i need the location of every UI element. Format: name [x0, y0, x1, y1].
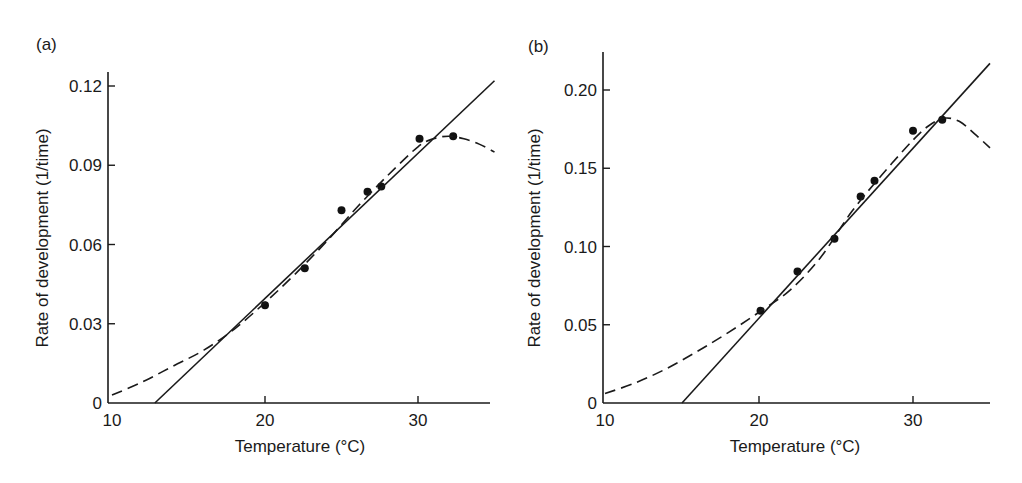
y-tick-label: 0.03 — [69, 315, 102, 334]
data-point — [364, 188, 372, 196]
x-tick-label: 10 — [103, 411, 122, 430]
y-tick-label: 0 — [93, 394, 102, 413]
figure: (a)00.030.060.090.12102030Temperature (°… — [0, 0, 1022, 483]
x-tick-label: 30 — [409, 411, 428, 430]
y-tick-label: 0.15 — [564, 159, 597, 178]
y-tick-label: 0.06 — [69, 236, 102, 255]
chart-panel-a: (a)00.030.060.090.12102030Temperature (°… — [33, 35, 495, 456]
x-tick-label: 30 — [904, 411, 923, 430]
x-tick-label: 10 — [596, 411, 615, 430]
x-axis-title: Temperature (°C) — [730, 437, 861, 456]
y-tick-label: 0.20 — [564, 81, 597, 100]
panel-label: (b) — [528, 37, 549, 56]
chart-panel-b: (b)00.050.100.150.20102030Temperature (°… — [525, 37, 990, 456]
nonlinear-fit-curve — [605, 118, 990, 394]
panel-label: (a) — [36, 35, 57, 54]
y-tick-label: 0.09 — [69, 156, 102, 175]
y-tick-label: 0.10 — [564, 238, 597, 257]
linear-fit-line — [682, 63, 990, 403]
x-tick-label: 20 — [256, 411, 275, 430]
y-tick-label: 0.12 — [69, 77, 102, 96]
linear-fit-line — [155, 81, 495, 403]
x-axis-title: Temperature (°C) — [235, 437, 366, 456]
data-point — [338, 206, 346, 214]
x-tick-label: 20 — [750, 411, 769, 430]
y-tick-label: 0.05 — [564, 316, 597, 335]
data-point — [909, 127, 917, 135]
y-axis-title: Rate of development (1/time) — [525, 128, 544, 347]
y-axis-title: Rate of development (1/time) — [33, 128, 52, 347]
data-point — [416, 135, 424, 143]
